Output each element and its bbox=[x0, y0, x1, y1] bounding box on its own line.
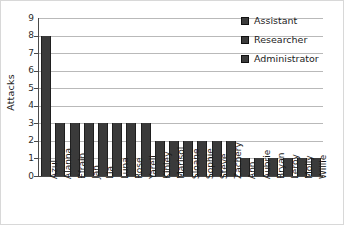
x-tick-label: Zachery bbox=[234, 142, 243, 179]
x-tick-label: Marisol bbox=[177, 147, 186, 179]
x-tick-label: Yareli bbox=[149, 155, 158, 179]
legend-label: Assistant bbox=[254, 16, 297, 26]
y-tick-label: 7 bbox=[21, 49, 34, 58]
y-tick-label: 1 bbox=[21, 154, 34, 163]
x-tick-label: Lia bbox=[106, 166, 115, 179]
legend-item[interactable]: Researcher bbox=[241, 34, 307, 46]
y-tick-label: 5 bbox=[21, 84, 34, 93]
x-tick-label: Sophie bbox=[206, 148, 215, 179]
x-tick-label: Azul bbox=[50, 160, 59, 179]
y-axis-line bbox=[38, 18, 39, 177]
legend-label: Researcher bbox=[254, 35, 307, 45]
x-tick-label: Molly bbox=[305, 155, 314, 179]
x-tick-label: Willie bbox=[319, 155, 328, 179]
y-tick-label: 3 bbox=[21, 119, 34, 128]
gridline bbox=[39, 123, 323, 124]
x-tick-label: Steve bbox=[220, 153, 229, 179]
x-tick-label: Rose bbox=[135, 157, 144, 179]
legend-item[interactable]: Assistant bbox=[241, 15, 297, 27]
y-tick-label: 6 bbox=[21, 66, 34, 75]
legend-swatch-icon bbox=[241, 36, 249, 44]
gridline bbox=[39, 71, 323, 72]
legend-swatch-icon bbox=[241, 17, 249, 25]
x-tick-label: Bryan bbox=[277, 153, 286, 179]
y-tick-label: 2 bbox=[21, 136, 34, 145]
x-tick-label: Jan bbox=[92, 165, 101, 179]
y-tick-label: 4 bbox=[21, 101, 34, 110]
y-tick-label: 0 bbox=[21, 172, 34, 181]
x-tick-label: Sloane bbox=[192, 149, 201, 179]
gridline bbox=[39, 141, 323, 142]
x-tick-label: Efrain bbox=[78, 153, 87, 179]
x-tick-label: Leroy bbox=[291, 154, 300, 179]
legend-item[interactable]: Administrator bbox=[241, 53, 319, 65]
x-tick-label: Aubrie bbox=[263, 150, 272, 179]
bar[interactable] bbox=[41, 36, 51, 176]
legend-swatch-icon bbox=[241, 55, 249, 63]
gridline bbox=[39, 88, 323, 89]
y-tick-label: 8 bbox=[21, 31, 34, 40]
y-tick-label: 9 bbox=[21, 14, 34, 23]
legend-label: Administrator bbox=[254, 54, 319, 64]
x-tick-label: Kinley bbox=[163, 152, 172, 179]
gridline bbox=[39, 106, 323, 107]
bar-chart: Attacks 9876543210 AzulAlannaEfrainJanLi… bbox=[0, 0, 344, 225]
x-tick-label: Alanna bbox=[64, 148, 73, 179]
x-tick-label: Luna bbox=[121, 157, 130, 179]
y-axis-title: Attacks bbox=[5, 63, 16, 123]
x-tick-label: Ann bbox=[248, 161, 257, 179]
